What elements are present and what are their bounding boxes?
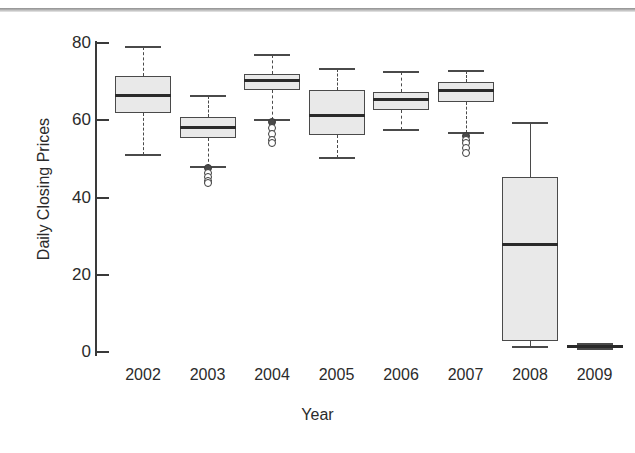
median-line-2008 (502, 243, 558, 246)
x-tick-label-2008: 2008 (498, 366, 562, 384)
median-line-2006 (373, 98, 429, 101)
whisker-upper-2007 (466, 71, 467, 82)
whisker-upper-2006 (401, 72, 402, 92)
whisker-cap-upper-2008 (512, 122, 548, 124)
x-tick-label-2009: 2009 (563, 366, 627, 384)
y-tick-0 (97, 351, 109, 353)
y-tick-label-80: 80 (55, 34, 91, 51)
whisker-cap-upper-2004 (254, 54, 290, 56)
box-2005[interactable] (309, 90, 365, 134)
outlier-point-2003 (204, 179, 212, 187)
whisker-upper-2004 (272, 55, 273, 75)
box-2004[interactable] (244, 74, 300, 90)
y-tick-label-60: 60 (55, 111, 91, 128)
median-line-2009 (567, 345, 623, 348)
y-axis-title: Daily Closing Prices (35, 69, 53, 309)
x-tick-label-2007: 2007 (434, 366, 498, 384)
y-tick-label-wrap: 20 (55, 266, 93, 283)
y-axis-line (95, 41, 97, 356)
outlier-point-2004 (268, 139, 276, 147)
y-tick-40 (97, 197, 109, 199)
whisker-cap-lower-2002 (125, 154, 161, 156)
y-tick-label-20: 20 (55, 266, 91, 283)
outlier-point-2007 (462, 149, 470, 157)
whisker-cap-upper-2006 (383, 71, 419, 73)
whisker-cap-lower-2008 (512, 346, 548, 348)
y-tick-label-wrap: 80 (55, 34, 93, 51)
box-2006[interactable] (373, 92, 429, 110)
whisker-lower-2004 (272, 90, 273, 120)
whisker-upper-2008 (530, 123, 531, 177)
y-tick-label-wrap: 40 (55, 189, 93, 206)
whisker-upper-2005 (337, 69, 338, 90)
boxplot-chart: 020406080 200220032004200520062007200820… (0, 0, 635, 453)
whisker-cap-lower-2006 (383, 129, 419, 131)
whisker-lower-2006 (401, 110, 402, 130)
median-line-2002 (115, 94, 171, 97)
whisker-lower-2003 (208, 138, 209, 167)
y-tick-80 (97, 42, 109, 44)
box-2008[interactable] (502, 177, 558, 341)
x-tick-label-2002: 2002 (111, 366, 175, 384)
whisker-lower-2005 (337, 135, 338, 159)
whisker-cap-upper-2002 (125, 46, 161, 48)
y-tick-20 (97, 274, 109, 276)
whisker-upper-2003 (208, 96, 209, 117)
y-tick-60 (97, 119, 109, 121)
whisker-lower-2002 (143, 113, 144, 155)
whisker-cap-lower-2005 (319, 157, 355, 159)
whisker-cap-upper-2005 (319, 68, 355, 70)
whisker-lower-2007 (466, 102, 467, 133)
whisker-upper-2002 (143, 47, 144, 76)
x-tick-label-2003: 2003 (176, 366, 240, 384)
y-tick-label-wrap: 60 (55, 111, 93, 128)
x-tick-label-2004: 2004 (240, 366, 304, 384)
y-tick-label-40: 40 (55, 189, 91, 206)
x-axis-title: Year (0, 406, 635, 424)
y-tick-label-wrap: 0 (55, 343, 93, 360)
median-line-2003 (180, 126, 236, 129)
box-2007[interactable] (438, 82, 494, 102)
median-line-2005 (309, 114, 365, 117)
median-line-2007 (438, 89, 494, 92)
x-tick-label-2006: 2006 (369, 366, 433, 384)
median-line-2004 (244, 79, 300, 82)
whisker-cap-lower-2009 (577, 348, 613, 350)
whisker-cap-upper-2003 (190, 95, 226, 97)
x-tick-label-2005: 2005 (305, 366, 369, 384)
whisker-cap-upper-2007 (448, 70, 484, 72)
y-tick-label-0: 0 (55, 343, 91, 360)
